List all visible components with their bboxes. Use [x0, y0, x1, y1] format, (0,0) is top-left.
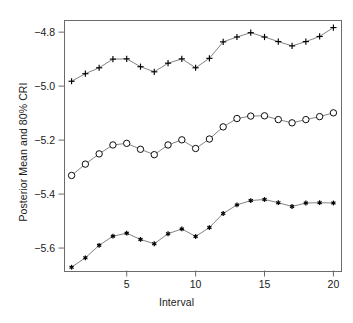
- plus-marker: [96, 65, 102, 71]
- plus-marker: [303, 38, 309, 44]
- series-line: [72, 199, 334, 267]
- y-tick-label: −5.4: [34, 188, 55, 200]
- x-tick-label: 20: [328, 278, 340, 290]
- circle-marker: [137, 146, 143, 152]
- circle-marker: [316, 113, 322, 119]
- plus-marker: [68, 78, 74, 84]
- circle-marker: [110, 142, 116, 148]
- circle-marker: [206, 136, 212, 142]
- circle-marker: [68, 172, 74, 178]
- y-tick-label: −5.6: [34, 242, 55, 254]
- star-marker: [194, 234, 198, 239]
- posterior-mean-cri-line-chart: −4.8−5.0−5.2−5.4−5.6 5101520: [0, 0, 353, 323]
- circle-marker: [330, 110, 336, 116]
- plus-marker: [124, 56, 130, 62]
- star-marker: [235, 202, 239, 207]
- plus-marker: [165, 60, 171, 66]
- circle-marker: [275, 116, 281, 122]
- y-tick-label: −5.2: [34, 134, 55, 146]
- star-marker: [152, 241, 156, 246]
- circle-marker: [124, 140, 130, 146]
- circle-marker: [165, 142, 171, 148]
- plus-marker: [193, 65, 199, 71]
- circle-marker: [151, 151, 157, 157]
- circle-marker: [82, 161, 88, 167]
- circle-marker: [289, 120, 295, 126]
- plus-marker: [261, 34, 267, 40]
- star-marker: [138, 237, 142, 242]
- plus-marker: [317, 33, 323, 39]
- plus-marker: [110, 56, 116, 62]
- plus-marker: [330, 24, 336, 30]
- circle-marker: [96, 151, 102, 157]
- circle-marker: [192, 145, 198, 151]
- circle-marker: [179, 137, 185, 143]
- x-tick-label: 5: [124, 278, 130, 290]
- series-1: [68, 24, 336, 84]
- x-axis-ticks: 5101520: [124, 271, 340, 291]
- circle-marker: [303, 116, 309, 122]
- x-tick-label: 10: [190, 278, 202, 290]
- star-marker: [70, 265, 74, 270]
- plus-marker: [151, 69, 157, 75]
- y-axis-label: Posterior Mean and 80% CRI: [17, 67, 29, 237]
- y-tick-label: −4.8: [34, 26, 55, 38]
- circle-marker: [220, 124, 226, 130]
- chart-container: −4.8−5.0−5.2−5.4−5.6 5101520 Posterior M…: [0, 0, 353, 323]
- plus-marker: [82, 71, 88, 77]
- y-axis-ticks: −4.8−5.0−5.2−5.4−5.6: [34, 26, 64, 254]
- circle-marker: [234, 115, 240, 121]
- x-axis-label: Interval: [0, 296, 353, 308]
- plus-marker: [234, 34, 240, 40]
- plot-frame: [65, 21, 342, 272]
- circle-marker: [261, 113, 267, 119]
- series-2: [68, 110, 336, 179]
- y-tick-label: −5.0: [34, 80, 55, 92]
- plus-marker: [179, 56, 185, 62]
- plus-marker: [289, 43, 295, 49]
- plus-marker: [137, 64, 143, 70]
- data-series-group: [68, 24, 336, 269]
- circle-marker: [248, 113, 254, 119]
- star-marker: [166, 231, 170, 236]
- plus-marker: [248, 30, 254, 36]
- star-marker: [180, 226, 184, 231]
- series-3: [70, 197, 336, 270]
- x-tick-label: 15: [259, 278, 271, 290]
- plus-marker: [275, 38, 281, 44]
- series-line: [72, 28, 334, 82]
